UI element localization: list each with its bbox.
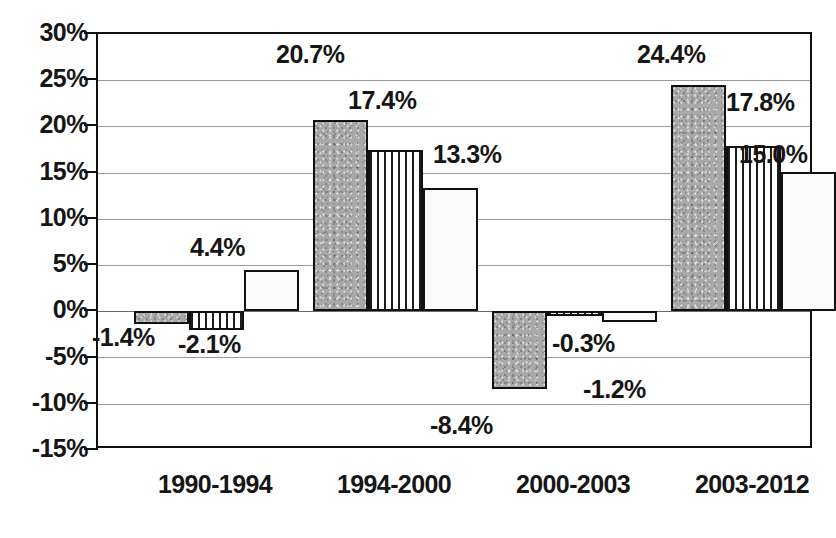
gridline-25: [98, 80, 810, 81]
y-tick-label-15: 15%: [14, 157, 88, 186]
bar-1994-2000-series-3: [423, 188, 478, 311]
y-tick-label-20: 20%: [14, 110, 88, 139]
y-tick-label-neg15: -15%: [14, 434, 88, 463]
data-label-2003-2012-series-2: 17.8%: [726, 88, 794, 117]
bar-1990-1994-series-2: [189, 311, 244, 330]
y-tick-label-neg5: -5%: [14, 342, 88, 371]
bar-2000-2003-series-3: [602, 311, 657, 322]
x-category-label-1994-2000: 1994-2000: [337, 470, 451, 499]
data-label-2003-2012-series-3: 15.0%: [739, 140, 807, 169]
data-label-1994-2000-series-1: 20.7%: [276, 40, 344, 69]
data-label-1990-1994-series-3: 4.4%: [190, 233, 245, 262]
y-tick-label-25: 25%: [14, 64, 88, 93]
data-label-1990-1994-series-2: -2.1%: [178, 330, 241, 359]
data-label-2000-2003-series-1: -8.4%: [430, 411, 493, 440]
gridline-neg10: [98, 404, 810, 405]
bar-2003-2012-series-1: [671, 85, 726, 311]
y-axis: 30% 25% 20% 15% 10% 5% 0% -5% -10% -15%: [0, 0, 88, 538]
y-tick-label-10: 10%: [14, 203, 88, 232]
bar-2000-2003-series-2: [547, 311, 602, 316]
data-label-2000-2003-series-3: -1.2%: [583, 375, 646, 404]
bar-chart: 30% 25% 20% 15% 10% 5% 0% -5% -10% -15%: [0, 0, 836, 538]
y-tick-mark: [84, 448, 98, 450]
bar-1994-2000-series-2: [368, 150, 423, 311]
y-tick-label-neg10: -10%: [14, 388, 88, 417]
x-category-label-2003-2012: 2003-2012: [695, 470, 809, 499]
data-label-1994-2000-series-3: 13.3%: [433, 140, 501, 169]
bar-2003-2012-series-3: [781, 172, 836, 311]
y-tick-label-5: 5%: [14, 249, 88, 278]
bar-1994-2000-series-1: [313, 120, 368, 311]
y-tick-label-0: 0%: [14, 295, 88, 324]
data-label-2000-2003-series-2: -0.3%: [552, 329, 615, 358]
bar-2000-2003-series-1: [492, 311, 547, 389]
bar-1990-1994-series-3: [244, 270, 299, 311]
data-label-2003-2012-series-1: 24.4%: [637, 40, 705, 69]
data-label-1994-2000-series-2: 17.4%: [348, 86, 416, 115]
x-category-label-1990-1994: 1990-1994: [158, 470, 272, 499]
x-category-label-2000-2003: 2000-2003: [516, 470, 630, 499]
bar-2003-2012-series-2: [726, 146, 781, 311]
y-tick-label-30: 30%: [14, 18, 88, 47]
data-label-1990-1994-series-1: -1.4%: [92, 323, 155, 352]
